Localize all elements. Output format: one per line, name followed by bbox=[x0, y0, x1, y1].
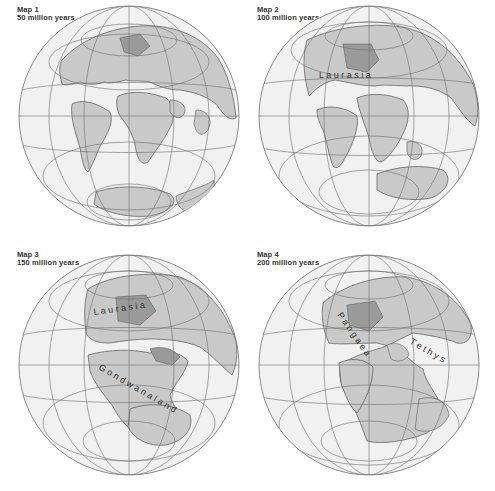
map-2-globe: L a u r a s i a bbox=[247, 0, 494, 245]
map-4-panel: Map 4 200 million years P a n g a e a T … bbox=[247, 245, 494, 490]
map-1-globe bbox=[0, 0, 247, 245]
map-2-laurasia-label: L a u r a s i a bbox=[319, 70, 371, 80]
map-3-panel: Map 3 150 million years L a u r a s i a … bbox=[0, 245, 247, 490]
map-4-globe: P a n g a e a T e t h y s bbox=[247, 245, 494, 491]
map-1-panel: Map 1 50 million years bbox=[0, 0, 247, 245]
map-2-panel: Map 2 100 million years L a u r a s i a bbox=[247, 0, 494, 245]
map-3-globe: L a u r a s i a G o n d w a n a l a n d bbox=[0, 245, 247, 491]
